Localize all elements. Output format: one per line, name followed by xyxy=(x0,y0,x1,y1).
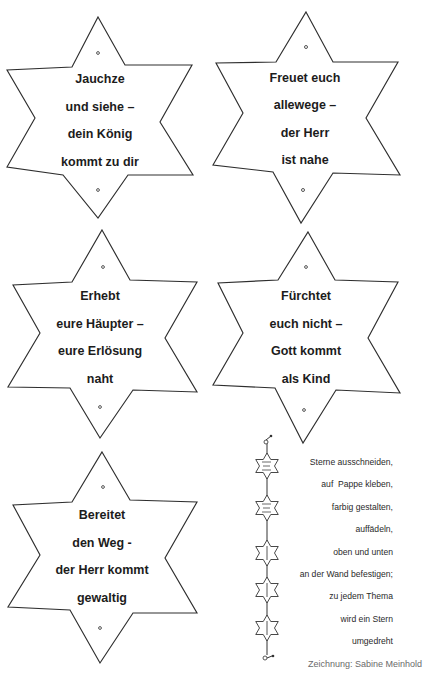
star-text-line: den Weg - xyxy=(17,530,187,558)
hole-top-icon xyxy=(102,486,105,489)
star-3-text: Erhebt eure Häupter – eure Erlösung naht xyxy=(15,283,185,393)
star-text-line: allewege – xyxy=(220,92,390,120)
instruction-line: auffädeln, xyxy=(300,518,393,540)
star-2-text: Freuet euch allewege – der Herr ist nahe xyxy=(220,65,390,175)
star-text-line: gewaltig xyxy=(17,585,187,613)
instruction-line: auf Pappe kleben, xyxy=(300,473,393,495)
hole-top-icon xyxy=(305,266,308,269)
star-text-line: Fürchtet xyxy=(221,283,391,311)
star-text-line: Jauchze xyxy=(15,66,185,94)
instruction-line: an der Wand befestigen; xyxy=(300,563,393,585)
star-text-line: naht xyxy=(15,366,185,394)
hole-top-icon xyxy=(102,266,105,269)
hole-bottom-icon xyxy=(303,409,306,412)
illustration-credit: Zeichnung: Sabine Meinhold xyxy=(308,659,422,669)
hole-bottom-icon xyxy=(302,189,305,192)
star-text-line: ist nahe xyxy=(220,147,390,175)
hole-bottom-icon xyxy=(99,406,102,409)
hole-top-icon xyxy=(305,46,308,49)
nail-top-icon xyxy=(270,435,273,438)
instruction-line: umgedreht xyxy=(300,630,393,652)
star-text-line: Erhebt xyxy=(15,283,185,311)
star-text-line: Gott kommt xyxy=(221,338,391,366)
star-1-text: Jauchze und siehe – dein König kommt zu … xyxy=(15,66,185,176)
star-text-line: der Herr kommt xyxy=(17,557,187,585)
instruction-line: farbig gestalten, xyxy=(300,496,393,518)
star-text-line: und siehe – xyxy=(15,94,185,122)
star-5-text: Bereitet den Weg - der Herr kommt gewalt… xyxy=(17,502,187,612)
instructions-text: Sterne ausschneiden, auf Pappe kleben, f… xyxy=(300,451,393,653)
instruction-line: zu jedem Thema xyxy=(300,585,393,607)
nail-bottom-icon xyxy=(272,655,275,658)
hook-bottom-icon xyxy=(263,656,267,660)
star-text-line: eure Häupter – xyxy=(15,311,185,339)
hole-top-icon xyxy=(97,52,100,55)
instruction-line: Sterne ausschneiden, xyxy=(300,451,393,473)
instruction-line: oben und unten xyxy=(300,541,393,563)
hook-top-icon xyxy=(264,440,268,444)
star-text-line: kommt zu dir xyxy=(15,149,185,177)
hole-bottom-icon xyxy=(97,189,100,192)
star-text-line: Freuet euch xyxy=(220,65,390,93)
instruction-line: wird ein Stern xyxy=(300,608,393,630)
star-garland-icon xyxy=(256,435,279,660)
star-text-line: Bereitet xyxy=(17,502,187,530)
hole-bottom-icon xyxy=(99,627,102,630)
star-text-line: der Herr xyxy=(220,120,390,148)
star-text-line: als Kind xyxy=(221,366,391,394)
star-text-line: dein König xyxy=(15,121,185,149)
star-4-text: Fürchtet euch nicht – Gott kommt als Kin… xyxy=(221,283,391,393)
star-text-line: euch nicht – xyxy=(221,311,391,339)
star-text-line: eure Erlösung xyxy=(15,338,185,366)
hook-bottom-line xyxy=(267,656,272,658)
